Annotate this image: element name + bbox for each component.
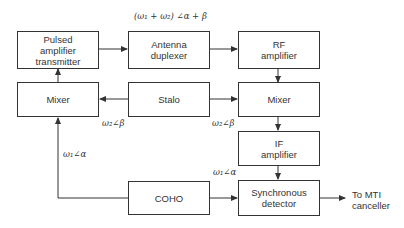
block-label: Mixer	[46, 94, 69, 105]
signal-label-coho-left: ω₁∠α	[63, 149, 86, 159]
block-coho: COHO	[128, 181, 210, 215]
block-label: RF	[261, 39, 297, 50]
block-label: IF	[261, 138, 297, 149]
block-label: Mixer	[267, 94, 290, 105]
signal-label-stalo-right: ω₂∠β	[212, 118, 234, 128]
block-if-amplifier: IF amplifier	[238, 131, 320, 166]
block-label: Synchronous	[251, 187, 306, 198]
block-rf-amplifier: RF amplifier	[238, 31, 320, 69]
block-synchronous-detector: Synchronous detector	[238, 180, 320, 216]
block-label: Antenna	[151, 39, 187, 50]
block-label: amplifier	[261, 50, 297, 61]
block-label: Stalo	[158, 94, 180, 105]
block-label: COHO	[155, 193, 184, 204]
output-line: To MTI	[352, 189, 390, 200]
block-mixer-left: Mixer	[17, 82, 99, 117]
signal-label-transmit: (ω₁ + ω₂) ∠α + β	[134, 11, 207, 21]
block-pulsed-amplifier-transmitter: Pulsed amplifier transmitter	[17, 31, 99, 69]
block-label: amplifier	[261, 149, 297, 160]
block-label: amplifier	[36, 45, 81, 56]
output-label: To MTI canceller	[352, 189, 390, 211]
block-mixer-right: Mixer	[238, 82, 320, 117]
block-label: detector	[251, 198, 306, 209]
block-label: Pulsed	[36, 34, 81, 45]
block-stalo: Stalo	[128, 82, 210, 117]
block-label: duplexer	[151, 50, 187, 61]
block-label: transmitter	[36, 56, 81, 67]
signal-label-stalo-left: ω₂∠β	[102, 118, 124, 128]
output-line: canceller	[352, 200, 390, 211]
block-antenna-duplexer: Antenna duplexer	[128, 31, 210, 69]
signal-label-coho-right: ω₁∠α	[213, 167, 236, 177]
